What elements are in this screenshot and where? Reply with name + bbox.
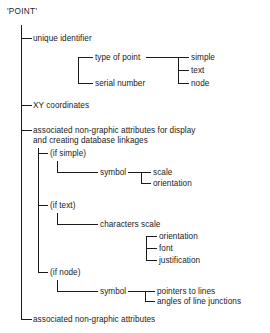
branch-a-vertical-line bbox=[78, 57, 79, 84]
node-xy-coordinates: XY coordinates bbox=[33, 101, 89, 111]
branch-stub-associated-attributes bbox=[21, 319, 32, 320]
node-font: font bbox=[159, 244, 173, 254]
symbol-node-stub-pointers bbox=[145, 291, 155, 292]
node-type-of-point: type of point bbox=[95, 53, 140, 63]
node-symbol-node: symbol bbox=[100, 287, 126, 297]
node-angles-of-line-junctions: angles of line junctions bbox=[157, 297, 241, 307]
node-text: text bbox=[191, 66, 204, 76]
node-if-simple: (if simple) bbox=[50, 149, 86, 159]
branch-a-connector-to-point-types bbox=[146, 57, 179, 58]
node-scale: scale bbox=[153, 168, 172, 178]
branch-stub-associated-attributes-display bbox=[21, 130, 32, 131]
symbol-simple-stub-orientation bbox=[141, 183, 151, 184]
node-if-text: (if text) bbox=[50, 201, 75, 211]
condition-stub-if-node bbox=[38, 272, 48, 273]
symbol-simple-stub-scale bbox=[141, 172, 151, 173]
node-serial-number: serial number bbox=[95, 79, 145, 89]
condition-stub-if-text bbox=[38, 205, 48, 206]
diagram-root-title: 'POINT' bbox=[7, 7, 37, 17]
characters-scale-stub-font bbox=[146, 248, 157, 249]
point-type-stub-text bbox=[178, 70, 189, 71]
trunk-vertical-line bbox=[21, 25, 22, 320]
point-type-stub-node bbox=[178, 83, 189, 84]
if-text-elbow-horizontal bbox=[57, 224, 98, 225]
branch-stub-unique-identifier bbox=[21, 38, 32, 39]
node-characters-scale: characters scale bbox=[100, 220, 160, 230]
node-simple: simple bbox=[191, 53, 215, 63]
node-symbol-simple: symbol bbox=[100, 168, 126, 178]
branch-a-stub-serial-number bbox=[78, 83, 93, 84]
symbol-node-connector bbox=[128, 291, 145, 292]
conditions-vertical-line bbox=[38, 148, 39, 273]
symbol-node-stub-angles bbox=[145, 301, 155, 302]
branch-a-stub-type-of-point bbox=[78, 57, 93, 58]
node-pointers-to-lines: pointers to lines bbox=[157, 287, 215, 297]
node-unique-identifier: unique identifier bbox=[33, 34, 92, 44]
node-orientation-text: orientation bbox=[159, 232, 198, 242]
point-type-stub-simple bbox=[178, 57, 189, 58]
if-node-elbow-horizontal bbox=[57, 291, 98, 292]
characters-scale-stub-justification bbox=[146, 260, 157, 261]
node-associated-attributes-display: associated non-graphic attributes for di… bbox=[33, 126, 248, 146]
node-orientation-simple: orientation bbox=[153, 179, 192, 189]
characters-scale-stub-orientation bbox=[146, 236, 157, 237]
node-justification: justification bbox=[159, 256, 200, 266]
node-associated-attributes: associated non-graphic attributes bbox=[33, 315, 155, 325]
root-title-text: 'POINT' bbox=[7, 7, 37, 16]
condition-stub-if-simple bbox=[38, 153, 48, 154]
point-entity-tree-diagram: 'POINT' unique identifier XY coordinates… bbox=[0, 0, 270, 333]
node-if-node: (if node) bbox=[50, 268, 81, 278]
symbol-simple-connector bbox=[128, 172, 141, 173]
branch-stub-xy-coordinates bbox=[21, 105, 32, 106]
if-simple-elbow-horizontal bbox=[57, 172, 98, 173]
node-node: node bbox=[191, 79, 209, 89]
